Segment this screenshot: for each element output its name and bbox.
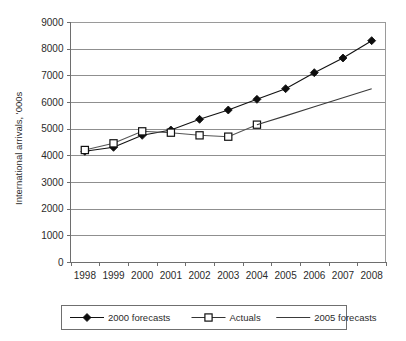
chart-container: 0100020003000400050006000700080009000 19… bbox=[0, 0, 406, 341]
data-point-marker bbox=[81, 146, 88, 153]
y-tick-label: 5000 bbox=[41, 123, 64, 134]
data-point-marker bbox=[110, 140, 117, 147]
x-tick-label: 2006 bbox=[303, 270, 326, 281]
y-tick-label: 4000 bbox=[41, 150, 64, 161]
legend-item-label: 2005 forecasts bbox=[314, 312, 377, 323]
y-tick-label: 2000 bbox=[41, 203, 64, 214]
international-arrivals-line-chart: 0100020003000400050006000700080009000 19… bbox=[0, 0, 406, 341]
data-point-marker bbox=[139, 128, 146, 135]
data-point-marker bbox=[225, 133, 232, 140]
y-tick-label: 9000 bbox=[41, 17, 64, 28]
x-axis-tick-labels: 1998199920002001200220032004200520062007… bbox=[74, 270, 384, 281]
y-tick-label: 6000 bbox=[41, 97, 64, 108]
y-tick-label: 0 bbox=[58, 257, 64, 268]
legend-item-label: 2000 forecasts bbox=[108, 312, 171, 323]
x-tick-label: 2007 bbox=[332, 270, 355, 281]
x-tick-label: 2004 bbox=[246, 270, 269, 281]
x-tick-label: 1999 bbox=[102, 270, 125, 281]
x-tick-label: 2008 bbox=[361, 270, 384, 281]
data-point-marker bbox=[167, 129, 174, 136]
chart-legend: 2000 forecastsActuals2005 forecasts bbox=[62, 306, 377, 330]
legend-item-label: Actuals bbox=[230, 312, 261, 323]
y-tick-label: 7000 bbox=[41, 70, 64, 81]
legend-marker-open-square-icon bbox=[205, 314, 212, 321]
y-tick-label: 8000 bbox=[41, 43, 64, 54]
x-tick-label: 2000 bbox=[131, 270, 154, 281]
x-tick-label: 2003 bbox=[217, 270, 240, 281]
x-tick-label: 2001 bbox=[160, 270, 183, 281]
x-tick-label: 1998 bbox=[74, 270, 97, 281]
x-tick-label: 2002 bbox=[188, 270, 211, 281]
y-axis-title: International arrivals, '000s bbox=[13, 92, 24, 205]
y-tick-label: 1000 bbox=[41, 230, 64, 241]
x-tick-label: 2005 bbox=[274, 270, 297, 281]
data-point-marker bbox=[196, 132, 203, 139]
y-tick-label: 3000 bbox=[41, 177, 64, 188]
